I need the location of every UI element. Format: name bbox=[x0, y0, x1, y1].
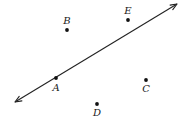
point-d-label: D bbox=[92, 107, 101, 118]
point-b-dot bbox=[65, 28, 69, 32]
arrowhead-left-icon bbox=[15, 96, 22, 102]
line-through-a bbox=[15, 4, 177, 102]
point-a-dot bbox=[54, 76, 58, 80]
point-e-label: E bbox=[123, 5, 132, 16]
point-c-dot bbox=[144, 78, 148, 82]
point-c: C bbox=[142, 78, 150, 94]
geometry-diagram: A B C D E bbox=[0, 0, 187, 127]
point-a-label: A bbox=[51, 82, 59, 93]
line-segment bbox=[15, 4, 177, 102]
point-c-label: C bbox=[142, 83, 150, 94]
point-d-dot bbox=[95, 102, 99, 106]
point-b: B bbox=[62, 15, 70, 32]
point-b-label: B bbox=[62, 15, 70, 26]
point-d: D bbox=[92, 102, 101, 118]
point-e-dot bbox=[126, 18, 130, 22]
arrowhead-right-icon bbox=[170, 4, 177, 10]
point-e: E bbox=[123, 5, 132, 22]
